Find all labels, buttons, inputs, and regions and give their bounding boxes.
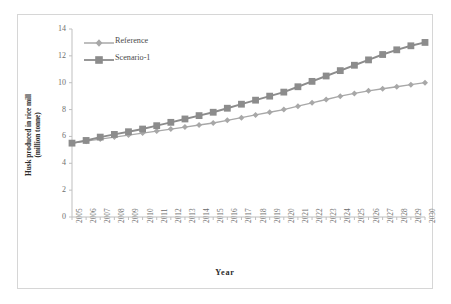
legend-item-reference: Reference <box>84 32 194 49</box>
chart-figure: Husk produced in rice mill (million tonn… <box>17 14 433 289</box>
legend-swatch-reference <box>84 35 114 47</box>
legend-label-scenario-1: Scenario-1 <box>115 53 150 62</box>
chart-legend: Reference Scenario-1 <box>84 32 194 66</box>
legend-label-reference: Reference <box>115 36 148 45</box>
legend-swatch-scenario-1 <box>84 52 114 64</box>
legend-item-scenario-1: Scenario-1 <box>84 49 194 66</box>
plot-area <box>18 15 434 290</box>
x-axis-title: Year <box>18 268 432 277</box>
